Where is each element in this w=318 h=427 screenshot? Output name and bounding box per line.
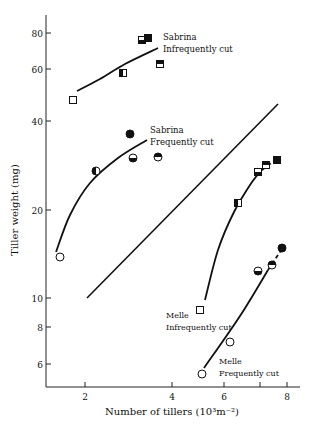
- x-tick-label: 2: [82, 392, 88, 402]
- y-tick-label: 6: [37, 360, 43, 370]
- circle-marker: [226, 338, 234, 346]
- circle-marker: [56, 253, 64, 261]
- y-tick-label: 8: [37, 323, 43, 333]
- square-marker: [118, 68, 127, 78]
- x-axis-label: Number of tillers (10³m⁻²): [105, 406, 239, 417]
- y-tick-label: 10: [32, 294, 44, 304]
- square-marker: [261, 160, 271, 169]
- fit-curve: [77, 48, 158, 91]
- fit-lines: [56, 48, 284, 368]
- circle-marker: [128, 154, 138, 163]
- axes: 8060402010862468: [32, 15, 300, 402]
- circle-marker: [198, 370, 206, 378]
- fit-curve: [204, 270, 268, 368]
- y-tick-label: 60: [32, 65, 44, 75]
- label-melle-frequent-2: Frequently cut: [219, 369, 280, 378]
- label-sabrina-frequent-1: Sabrina: [150, 125, 184, 135]
- y-tick-label: 80: [32, 29, 44, 39]
- y-tick-label: 20: [32, 206, 44, 216]
- label-sabrina-infrequent-1: Sabrina: [163, 32, 197, 42]
- circle-marker: [253, 267, 263, 276]
- square-marker: [253, 169, 263, 178]
- square-marker: [272, 155, 282, 165]
- fit-curve: [205, 170, 262, 300]
- x-tick-label: 4: [169, 392, 175, 402]
- chart-canvas: 8060402010862468 Sabrina Infrequently cu…: [0, 0, 318, 427]
- y-tick-label: 40: [32, 117, 44, 127]
- x-tick-label: 6: [221, 392, 227, 402]
- label-sabrina-frequent-2: Frequently cut: [150, 137, 214, 147]
- annotations: Sabrina Infrequently cut Sabrina Frequen…: [150, 32, 280, 378]
- circle-marker: [153, 152, 163, 161]
- circle-marker: [91, 166, 100, 176]
- circle-marker: [125, 129, 135, 139]
- square-marker: [70, 97, 77, 104]
- label-melle-infrequent-1: Melle: [166, 311, 189, 320]
- circle-marker: [267, 260, 277, 269]
- tiller-weight-chart: 8060402010862468 Sabrina Infrequently cu…: [0, 0, 318, 427]
- y-axis-label: Tiller weight (mg): [9, 164, 20, 256]
- label-melle-frequent-1: Melle: [219, 357, 242, 366]
- x-tick-label: 8: [284, 392, 290, 402]
- square-marker: [197, 307, 204, 314]
- label-melle-infrequent-2: Infrequently cut: [166, 323, 232, 332]
- circle-marker: [277, 243, 287, 253]
- label-sabrina-infrequent-2: Infrequently cut: [163, 44, 233, 54]
- square-marker: [143, 33, 153, 43]
- square-marker: [233, 198, 242, 208]
- square-marker: [155, 59, 165, 68]
